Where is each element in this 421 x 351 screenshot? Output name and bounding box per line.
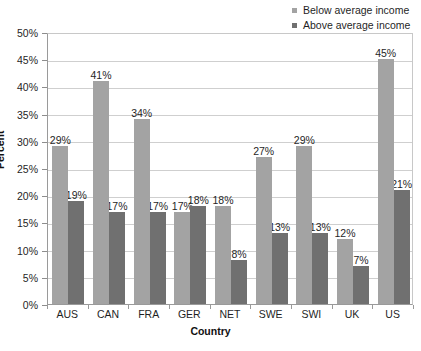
x-axis-tick-mark: [372, 305, 373, 309]
bar-swi-above: [312, 233, 328, 304]
legend-item-above-average-income: Above average income: [292, 19, 410, 31]
y-axis-tick-label: 0%: [0, 299, 38, 311]
x-axis-tick-mark: [332, 305, 333, 309]
bar-group: [134, 34, 166, 304]
x-axis-tick-mark: [291, 305, 292, 309]
bar-us-below: [378, 59, 394, 304]
bar-group: [174, 34, 206, 304]
legend-label-below-average-income: Below average income: [303, 4, 409, 16]
y-axis-tick-label: 20%: [0, 190, 38, 202]
plot-area: 29%19%41%17%34%17%17%18%18%8%27%13%29%13…: [47, 33, 413, 305]
bar-group: [378, 34, 410, 304]
y-axis-tick-label: 25%: [0, 163, 38, 175]
bar-ger-below: [174, 212, 190, 304]
legend-swatch-above-average-income: [292, 23, 297, 28]
x-axis-tick-label: AUS: [57, 308, 79, 320]
x-axis-tick-label: US: [385, 308, 400, 320]
bar-swi-below: [296, 146, 312, 304]
bar-swe-above: [272, 233, 288, 304]
bar-swe-below: [256, 157, 272, 304]
y-axis-tick-label: 45%: [0, 54, 38, 66]
bar-fra-above: [150, 212, 166, 304]
y-axis-tick-label: 15%: [0, 217, 38, 229]
y-axis-tick-label: 35%: [0, 109, 38, 121]
bar-chart: Below average income Above average incom…: [0, 0, 421, 351]
bar-fra-below: [134, 119, 150, 304]
y-axis-tick-label: 50%: [0, 27, 38, 39]
bar-group: [256, 34, 288, 304]
x-axis-tick-label: CAN: [97, 308, 119, 320]
bar-uk-above: [353, 266, 369, 304]
x-axis-tick-label: SWE: [259, 308, 283, 320]
y-axis-tick-label: 30%: [0, 136, 38, 148]
bar-aus-above: [68, 201, 84, 304]
bar-can-above: [109, 212, 125, 304]
x-axis-tick-mark: [47, 305, 48, 309]
bar-group: [215, 34, 247, 304]
x-axis-tick-mark: [88, 305, 89, 309]
bar-group: [337, 34, 369, 304]
x-axis-tick-label: UK: [345, 308, 360, 320]
bar-net-above: [231, 260, 247, 304]
x-axis-tick-label: NET: [220, 308, 241, 320]
chart-legend: Below average income Above average incom…: [292, 4, 410, 31]
bar-ger-above: [190, 206, 206, 304]
legend-item-below-average-income: Below average income: [292, 4, 410, 16]
legend-swatch-below-average-income: [292, 8, 297, 13]
bar-us-above: [394, 190, 410, 304]
x-axis-tick-mark: [169, 305, 170, 309]
bar-net-below: [215, 206, 231, 304]
legend-label-above-average-income: Above average income: [303, 19, 410, 31]
x-axis-tick-mark: [413, 305, 414, 309]
bar-group: [52, 34, 84, 304]
bar-group: [296, 34, 328, 304]
bar-can-below: [93, 81, 109, 304]
bars-layer: 29%19%41%17%34%17%17%18%18%8%27%13%29%13…: [48, 34, 412, 304]
x-axis-tick-label: GER: [178, 308, 201, 320]
x-axis-tick-mark: [250, 305, 251, 309]
bar-aus-below: [52, 146, 68, 304]
x-axis-tick-label: SWI: [301, 308, 321, 320]
bar-uk-below: [337, 239, 353, 304]
x-axis-tick-label: FRA: [138, 308, 159, 320]
x-axis-label: Country: [0, 325, 421, 337]
y-axis-tick-label: 10%: [0, 245, 38, 257]
bar-group: [93, 34, 125, 304]
x-axis-tick-mark: [128, 305, 129, 309]
x-axis-tick-mark: [210, 305, 211, 309]
y-axis-tick-label: 5%: [0, 272, 38, 284]
y-axis-tick-label: 40%: [0, 81, 38, 93]
